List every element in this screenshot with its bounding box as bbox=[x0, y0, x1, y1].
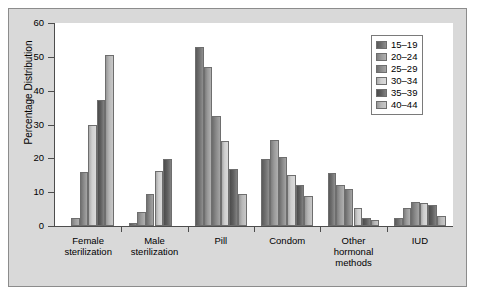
y-axis-line bbox=[54, 23, 55, 227]
x-axis-category-line: Condom bbox=[254, 235, 320, 246]
y-axis-tick bbox=[48, 57, 54, 58]
x-axis-category-line: methods bbox=[320, 257, 386, 268]
bar bbox=[371, 220, 380, 226]
x-axis-category-label: Otherhormonalmethods bbox=[320, 235, 386, 268]
x-axis-category-line: Other bbox=[320, 235, 386, 246]
bar bbox=[155, 171, 164, 226]
legend-item[interactable]: 15–19 bbox=[376, 39, 417, 51]
bar bbox=[105, 55, 114, 226]
x-axis-category-line: sterilization bbox=[121, 246, 187, 257]
x-axis-tick bbox=[254, 227, 255, 232]
bar bbox=[394, 218, 403, 226]
legend-label: 15–19 bbox=[391, 40, 417, 50]
legend-item[interactable]: 30–34 bbox=[376, 75, 417, 87]
x-axis-tick bbox=[188, 227, 189, 232]
bar bbox=[304, 196, 313, 226]
bar bbox=[229, 169, 238, 226]
bar bbox=[287, 175, 296, 226]
bar bbox=[420, 203, 429, 226]
bar bbox=[212, 116, 221, 226]
legend-swatch-icon bbox=[376, 53, 387, 61]
bar bbox=[204, 67, 213, 226]
x-axis-category-line: IUD bbox=[387, 235, 453, 246]
legend-swatch-icon bbox=[376, 89, 387, 97]
x-axis-category-label: Malesterilization bbox=[121, 235, 187, 257]
x-axis-category-line: Male bbox=[121, 235, 187, 246]
x-axis-category-line: Female bbox=[55, 235, 121, 246]
y-axis-tick bbox=[48, 158, 54, 159]
x-axis-category-line: Pill bbox=[188, 235, 254, 246]
bar bbox=[345, 189, 354, 226]
bar bbox=[362, 218, 371, 226]
bar bbox=[71, 218, 80, 226]
x-axis-category-line: hormonal bbox=[320, 246, 386, 257]
legend-label: 35–39 bbox=[391, 88, 417, 98]
y-axis-tick bbox=[48, 23, 54, 24]
x-axis-category-line: sterilization bbox=[55, 246, 121, 257]
x-axis-category-label: Femalesterilization bbox=[55, 235, 121, 257]
bar bbox=[437, 216, 446, 226]
bar bbox=[195, 47, 204, 226]
bar bbox=[296, 185, 305, 226]
legend-item[interactable]: 35–39 bbox=[376, 87, 417, 99]
y-axis-tick-label: 0 bbox=[10, 221, 44, 231]
legend-swatch-icon bbox=[376, 65, 387, 73]
bar bbox=[279, 157, 288, 226]
x-axis-category-label: IUD bbox=[387, 235, 453, 246]
bar bbox=[328, 173, 337, 226]
bar bbox=[403, 208, 412, 226]
bar bbox=[88, 125, 97, 226]
bar bbox=[137, 212, 146, 226]
x-axis-category-label: Condom bbox=[254, 235, 320, 246]
x-axis-category-label: Pill bbox=[188, 235, 254, 246]
legend-item[interactable]: 25–29 bbox=[376, 63, 417, 75]
bar bbox=[163, 159, 172, 226]
legend-label: 40–44 bbox=[391, 100, 417, 110]
x-axis-tick bbox=[320, 227, 321, 232]
legend-swatch-icon bbox=[376, 41, 387, 49]
bar bbox=[428, 205, 437, 226]
legend-item[interactable]: 20–24 bbox=[376, 51, 417, 63]
bar bbox=[146, 194, 155, 226]
x-axis-tick bbox=[387, 227, 388, 232]
chart-legend[interactable]: 15–1920–2425–2930–3435–3940–44 bbox=[371, 35, 423, 115]
legend-label: 25–29 bbox=[391, 64, 417, 74]
bar bbox=[129, 223, 138, 226]
legend-swatch-icon bbox=[376, 101, 387, 109]
bar bbox=[336, 185, 345, 226]
bar bbox=[238, 194, 247, 226]
legend-label: 20–24 bbox=[391, 52, 417, 62]
bar bbox=[270, 140, 279, 226]
bar bbox=[97, 100, 106, 226]
legend-swatch-icon bbox=[376, 77, 387, 85]
bar bbox=[261, 159, 270, 226]
bar bbox=[411, 202, 420, 226]
bar bbox=[354, 208, 363, 226]
y-axis-tick bbox=[48, 192, 54, 193]
y-axis-tick bbox=[48, 226, 54, 227]
y-axis-tick bbox=[48, 91, 54, 92]
x-axis-tick bbox=[121, 227, 122, 232]
y-axis-tick bbox=[48, 125, 54, 126]
bar bbox=[80, 172, 89, 226]
y-axis-tick-label: 10 bbox=[10, 187, 44, 197]
legend-item[interactable]: 40–44 bbox=[376, 99, 417, 111]
bar bbox=[221, 141, 230, 226]
chart-figure: 0102030405060 FemalesterilizationMaleste… bbox=[8, 8, 467, 287]
legend-label: 30–34 bbox=[391, 76, 417, 86]
y-axis-title: Percentage Distribution bbox=[23, 18, 34, 168]
